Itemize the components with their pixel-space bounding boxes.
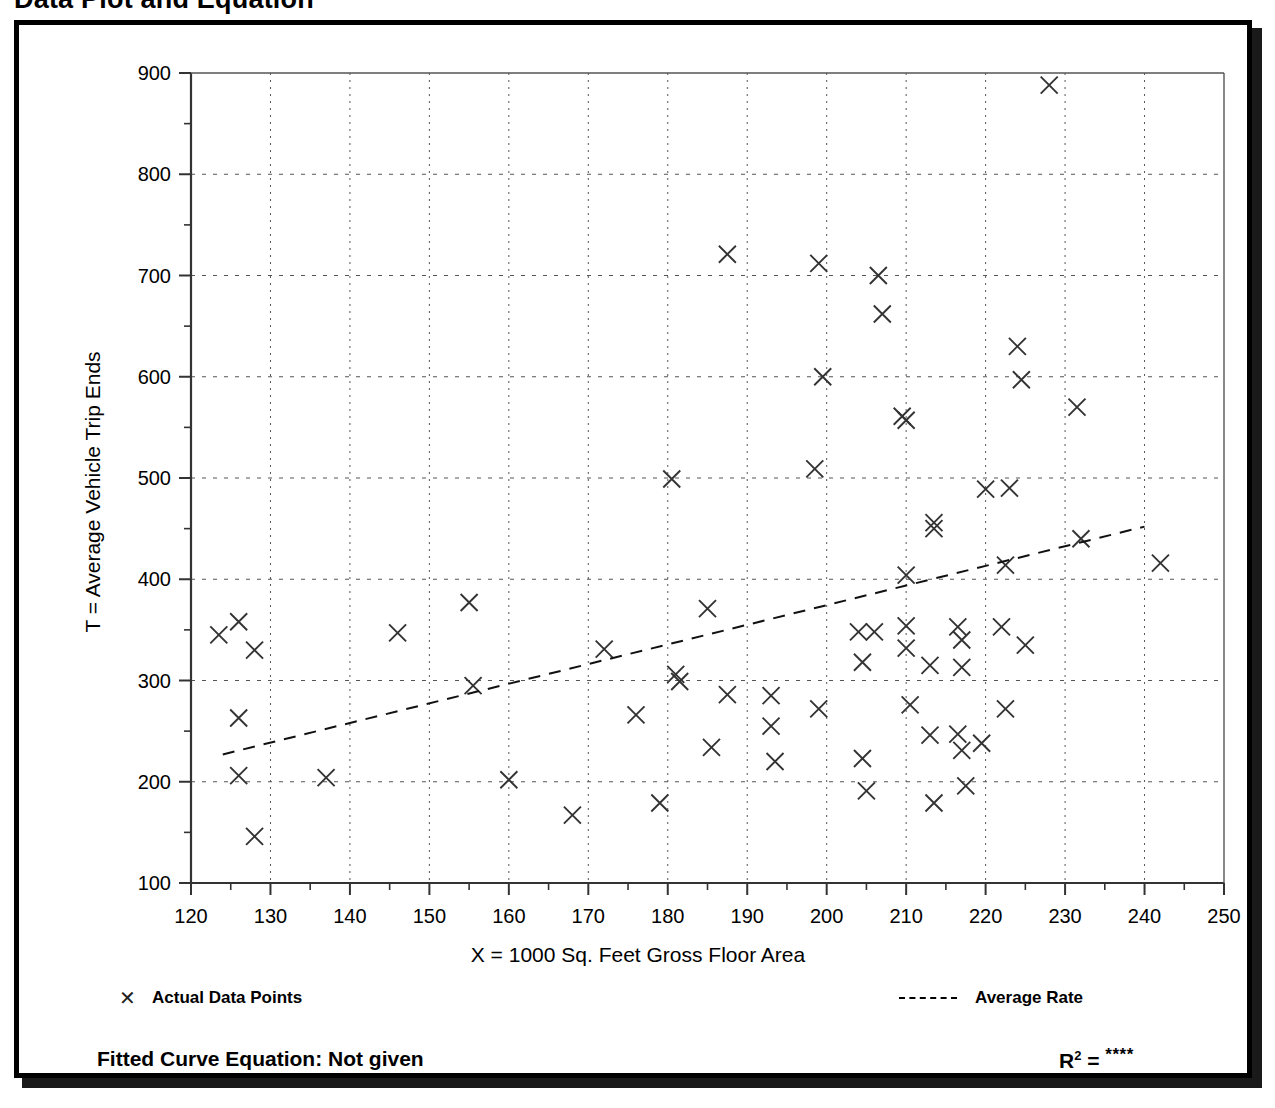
data-point-marker [461,594,478,611]
x-tick-label: 200 [810,905,843,927]
scatter-plot-svg: 1002003004005006007008009001201301401501… [19,25,1257,1083]
data-point-group [210,77,1169,845]
data-point-marker [1001,480,1018,497]
x-tick-label: 180 [651,905,684,927]
data-point-marker [719,686,736,703]
r-squared-label: R [1059,1049,1074,1072]
x-tick-label: 130 [254,905,287,927]
dashed-line-icon [899,997,957,999]
data-point-marker [767,753,784,770]
data-point-marker [1009,338,1026,355]
data-point-marker [1041,77,1058,94]
plot-area: 1002003004005006007008009001201301401501… [19,25,1257,1083]
data-point-marker [1152,555,1169,572]
y-tick-label: 200 [138,771,171,793]
data-point-marker [719,246,736,263]
data-point-marker [210,626,227,643]
r-squared-block: R2 = **** [1059,1045,1134,1073]
data-point-marker [810,255,827,272]
data-point-marker [866,623,883,640]
data-point-marker [1013,371,1030,388]
legend-label-actual-data-points: Actual Data Points [152,988,302,1008]
y-tick-label: 300 [138,670,171,692]
x-tick-label: 240 [1128,905,1161,927]
x-tick-label: 210 [889,905,922,927]
data-point-marker [627,706,644,723]
data-point-marker [389,624,406,641]
data-point-marker [997,557,1014,574]
y-tick-label: 600 [138,366,171,388]
data-point-marker [596,641,613,658]
data-point-marker [564,807,581,824]
average-rate-trend-line [223,527,1145,755]
data-point-marker [898,567,915,584]
x-tick-label: 190 [731,905,764,927]
legend-label-average-rate: Average Rate [975,988,1083,1008]
y-tick-label: 100 [138,872,171,894]
data-point-marker [953,742,970,759]
y-axis-title: T = Average Vehicle Trip Ends [81,232,105,752]
data-point-marker [651,795,668,812]
data-point-marker [763,718,780,735]
y-tick-label: 500 [138,467,171,489]
data-point-marker [854,750,871,767]
data-point-marker [806,460,823,477]
y-tick-label: 800 [138,163,171,185]
data-point-marker [1068,399,1085,416]
x-tick-label: 160 [492,905,525,927]
data-point-marker [921,657,938,674]
data-point-marker [949,618,966,635]
data-point-marker [858,782,875,799]
legend-average-rate: Average Rate [899,988,1083,1008]
data-point-marker [763,687,780,704]
data-point-marker [850,623,867,640]
x-tick-label: 250 [1207,905,1240,927]
data-point-marker [814,368,831,385]
data-point-marker [230,613,247,630]
y-tick-label: 900 [138,62,171,84]
data-point-marker [925,795,942,812]
data-point-marker [898,412,915,429]
data-point-marker [953,659,970,676]
data-point-marker [874,305,891,322]
x-tick-label: 120 [174,905,207,927]
data-point-marker [973,735,990,752]
data-point-marker [230,709,247,726]
data-point-marker [854,654,871,671]
data-point-marker [246,642,263,659]
y-tick-label: 400 [138,568,171,590]
data-point-marker [997,700,1014,717]
data-point-marker [1017,637,1034,654]
r-squared-equals: = [1081,1049,1105,1072]
x-tick-label: 230 [1048,905,1081,927]
r-squared-value: **** [1105,1045,1133,1064]
x-tick-label: 140 [333,905,366,927]
data-point-marker [977,481,994,498]
x-tick-label: 150 [413,905,446,927]
x-tick-label: 220 [969,905,1002,927]
data-point-marker [921,727,938,744]
data-point-marker [699,600,716,617]
data-point-marker [663,471,680,488]
page-title: Data Plot and Equation [14,0,314,15]
data-point-marker [318,769,335,786]
data-point-marker [993,618,1010,635]
x-axis-title: X = 1000 Sq. Feet Gross Floor Area [19,943,1257,967]
data-point-marker [957,777,974,794]
data-point-marker [810,700,827,717]
chart-panel: 1002003004005006007008009001201301401501… [14,20,1252,1078]
x-tick-label: 170 [572,905,605,927]
data-point-marker [671,673,688,690]
data-point-marker [902,696,919,713]
fitted-curve-equation: Fitted Curve Equation: Not given [97,1047,424,1071]
y-tick-label: 700 [138,265,171,287]
data-point-marker [1072,530,1089,547]
x-marker-icon: ✕ [119,988,136,1008]
data-point-marker [953,632,970,649]
data-point-marker [949,726,966,743]
data-point-marker [246,828,263,845]
data-point-marker [703,739,720,756]
legend-actual-data-points: ✕ Actual Data Points [119,988,302,1008]
